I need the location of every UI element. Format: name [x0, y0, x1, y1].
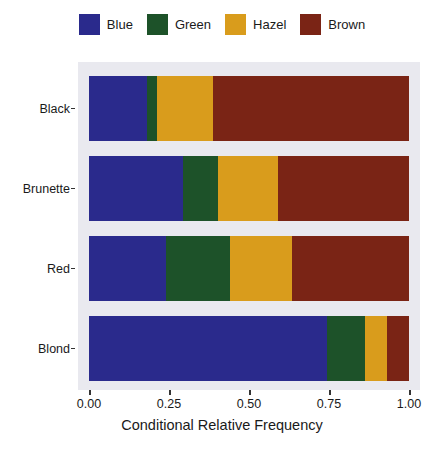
bar-row-black [89, 76, 409, 141]
bars-layer [78, 62, 420, 390]
legend-swatch-brown-icon [300, 14, 321, 35]
x-tick-mark-1 [169, 390, 171, 395]
y-tick-mark-blond [71, 348, 75, 350]
x-axis-label: Conditional Relative Frequency [0, 418, 444, 433]
chart-legend: Blue Green Hazel Brown [0, 14, 444, 35]
bar-segment-red-hazel [230, 236, 292, 301]
bar-segment-blond-green [327, 316, 365, 381]
stacked-bar-chart: Blue Green Hazel Brown BlackBrunetteRedB… [0, 0, 444, 452]
x-tick-label-3: 0.75 [317, 398, 341, 411]
x-tick-mark-3 [329, 390, 331, 395]
legend-label-green: Green [175, 18, 211, 31]
bar-segment-black-hazel [157, 76, 212, 141]
y-tick-label-blond: Blond [38, 343, 70, 356]
y-tick-label-brunette: Brunette [23, 183, 70, 196]
bar-segment-black-brown [213, 76, 409, 141]
bar-segment-black-green [147, 76, 158, 141]
legend-swatch-blue-icon [79, 14, 100, 35]
legend-item-brown: Brown [300, 14, 365, 35]
y-tick-label-red: Red [47, 263, 70, 276]
x-tick-mark-0 [89, 390, 91, 395]
legend-item-green: Green [147, 14, 211, 35]
bar-row-blond [89, 316, 409, 381]
legend-item-blue: Blue [79, 14, 133, 35]
x-tick-mark-4 [409, 390, 411, 395]
bar-segment-brunette-brown [278, 156, 409, 221]
x-tick-label-2: 0.50 [237, 398, 261, 411]
bar-segment-brunette-green [183, 156, 218, 221]
y-tick-label-black: Black [39, 103, 70, 116]
x-tick-label-4: 1.00 [397, 398, 421, 411]
bar-segment-brunette-blue [89, 156, 183, 221]
bar-segment-brunette-hazel [218, 156, 278, 221]
bar-segment-black-blue [89, 76, 147, 141]
x-axis: 0.000.250.500.751.00 [78, 390, 420, 420]
legend-swatch-green-icon [147, 14, 168, 35]
bar-row-red [89, 236, 409, 301]
y-tick-mark-red [71, 268, 75, 270]
bar-segment-red-blue [89, 236, 166, 301]
bar-segment-blond-blue [89, 316, 327, 381]
legend-label-blue: Blue [107, 18, 133, 31]
legend-label-brown: Brown [328, 18, 365, 31]
x-tick-label-0: 0.00 [77, 398, 101, 411]
bar-row-brunette [89, 156, 409, 221]
legend-label-hazel: Hazel [253, 18, 286, 31]
plot-panel [78, 62, 420, 390]
legend-swatch-hazel-icon [225, 14, 246, 35]
y-axis: BlackBrunetteRedBlond [0, 62, 70, 390]
bar-segment-red-brown [292, 236, 409, 301]
y-tick-mark-black [71, 108, 75, 110]
bar-segment-blond-hazel [365, 316, 387, 381]
y-tick-mark-brunette [71, 188, 75, 190]
x-tick-label-1: 0.25 [157, 398, 181, 411]
x-tick-mark-2 [249, 390, 251, 395]
bar-segment-blond-brown [387, 316, 409, 381]
bar-segment-red-green [166, 236, 230, 301]
legend-item-hazel: Hazel [225, 14, 286, 35]
